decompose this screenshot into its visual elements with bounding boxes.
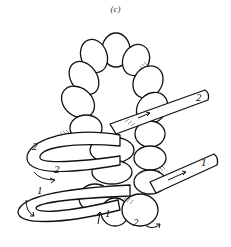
label-end-1-right: 1: [201, 156, 207, 168]
label-loop-2-left-upper: 2: [32, 140, 38, 152]
label-end-2-top-right: 2: [196, 91, 202, 103]
label-loop-1-left-lower: 1: [37, 184, 43, 196]
knot-illustration: 2 1 2 2 1 1 2: [0, 0, 231, 247]
label-bottom-1: 1: [105, 207, 111, 219]
label-loop-2-left-inner: 2: [54, 163, 60, 175]
label-bottom-2: 2: [133, 216, 139, 228]
